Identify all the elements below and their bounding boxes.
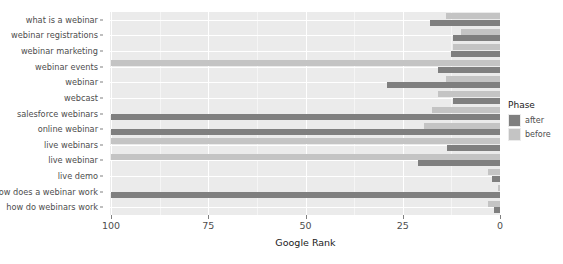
y-axis-tick-mark: [100, 51, 103, 52]
y-axis-tick-label: webcast: [64, 94, 98, 102]
bar-before: [111, 154, 500, 160]
y-axis-tick-mark: [100, 82, 103, 83]
legend-color-swatch: [509, 129, 520, 140]
legend-label: after: [525, 117, 544, 125]
grid-line-horizontal: [110, 35, 501, 36]
bar-after: [111, 129, 500, 135]
legend-item: after: [508, 114, 551, 127]
y-axis-tick-mark: [100, 207, 103, 208]
y-axis-tick-label: webinar: [65, 78, 98, 86]
legend-key-box: [508, 114, 521, 127]
grid-line-horizontal: [110, 145, 501, 146]
y-axis-tick-mark: [100, 19, 103, 20]
bar-after: [451, 51, 500, 57]
y-axis-tick-label: webinar events: [35, 63, 98, 71]
x-axis-tick-mark: [208, 215, 209, 219]
bar-after: [492, 176, 500, 182]
y-axis-tick-mark: [100, 160, 103, 161]
bar-after: [453, 98, 500, 104]
y-axis-tick-mark: [100, 175, 103, 176]
legend-entries: afterbefore: [508, 114, 551, 141]
grid-line-horizontal: [110, 51, 501, 52]
bar-after: [494, 207, 500, 213]
bar-before: [488, 169, 500, 175]
bar-after: [111, 114, 500, 120]
x-axis-title: Google Rank: [110, 238, 501, 248]
grid-line-horizontal: [110, 207, 501, 208]
legend-key-box: [508, 128, 521, 141]
y-axis-tick-label: salesforce webinars: [17, 109, 98, 117]
y-axis-labels: what is a webinarwebinar registrationswe…: [0, 12, 104, 215]
bar-after: [453, 35, 500, 41]
x-axis-tick-label: 0: [497, 221, 503, 231]
bar-before: [432, 107, 500, 113]
y-axis-tick-label: how do webinars work: [6, 203, 98, 211]
bar-before: [453, 44, 500, 50]
bar-after: [430, 20, 500, 26]
y-axis-tick-mark: [100, 144, 103, 145]
bar-after: [111, 192, 500, 198]
y-axis-tick-mark: [100, 97, 103, 98]
y-axis-tick-mark: [100, 129, 103, 130]
y-axis-tick-label: webinar registrations: [11, 31, 98, 39]
y-axis-tick-mark: [100, 35, 103, 36]
bar-after: [418, 160, 500, 166]
bar-before: [488, 201, 500, 207]
bar-before: [446, 13, 500, 19]
grid-line-horizontal: [110, 98, 501, 99]
bar-after: [447, 145, 500, 151]
x-axis-tick-mark: [500, 215, 501, 219]
x-axis-tick-mark: [306, 215, 307, 219]
legend: Phase afterbefore: [508, 101, 551, 142]
grid-line-horizontal: [110, 176, 501, 177]
y-axis-tick-label: how does a webinar work: [0, 187, 98, 195]
x-axis-tick-mark: [403, 215, 404, 219]
bar-before: [498, 185, 500, 191]
plot-area: [110, 12, 501, 215]
bar-after: [387, 82, 500, 88]
bar-before: [424, 123, 500, 129]
legend-label: before: [525, 131, 551, 139]
bar-before: [446, 76, 500, 82]
bar-before: [438, 91, 500, 97]
y-axis-tick-mark: [100, 191, 103, 192]
horizontal-bar-chart: what is a webinarwebinar registrationswe…: [0, 0, 563, 264]
y-axis-tick-mark: [100, 66, 103, 67]
y-axis-tick-label: webinar marketing: [21, 47, 98, 55]
y-axis-tick-label: what is a webinar: [26, 16, 98, 24]
x-axis-tick-label: 100: [102, 221, 120, 231]
y-axis-tick-label: live demo: [58, 172, 98, 180]
x-axis-tick-label: 25: [397, 221, 409, 231]
x-axis-tick-label: 50: [299, 221, 311, 231]
y-axis-tick-label: online webinar: [38, 125, 98, 133]
legend-item: before: [508, 128, 551, 141]
bar-after: [438, 67, 500, 73]
legend-color-swatch: [509, 115, 520, 126]
legend-title: Phase: [508, 101, 551, 110]
y-axis-tick-label: live webinars: [44, 141, 98, 149]
bar-before: [111, 138, 500, 144]
y-axis-tick-mark: [100, 113, 103, 114]
x-axis-tick-mark: [111, 215, 112, 219]
bar-before: [461, 29, 500, 35]
bar-before: [111, 60, 500, 66]
x-axis-tick-label: 75: [202, 221, 214, 231]
y-axis-tick-label: live webinar: [48, 156, 98, 164]
